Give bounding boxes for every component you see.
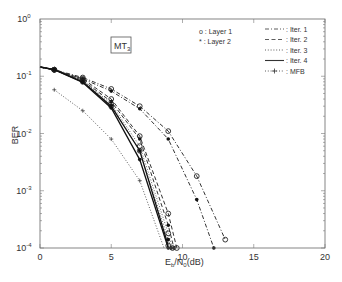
ber-chart: 0510152010010-110-210-310-4 MT3 o : Laye…: [0, 0, 342, 282]
legend-line-item: : Iter. 1: [286, 26, 308, 33]
marker-circle: [223, 237, 228, 242]
x-tick-label: 0: [37, 252, 42, 262]
legend-line-item: : Iter. 2: [286, 36, 308, 43]
legend-line-item: : MFB: [286, 68, 305, 75]
marker-star: [138, 158, 142, 162]
legend-line-item: : Iter. 4: [286, 57, 308, 64]
marker-star: [138, 137, 142, 141]
y-tick-label: 100: [17, 13, 31, 24]
y-tick-label: 10-1: [16, 70, 32, 81]
legend-line-item: : Iter. 3: [286, 47, 308, 54]
curve-iter-2-layer-1: [40, 67, 177, 248]
x-tick-label: 5: [109, 252, 114, 262]
annotation-box: MT3: [111, 37, 131, 53]
x-tick-label: 15: [249, 252, 259, 262]
marker-star: [109, 106, 113, 110]
y-tick-label: 10-3: [16, 185, 32, 196]
y-axis-label: BER: [10, 125, 20, 144]
curves: [40, 67, 228, 250]
annotation-label: MT3: [114, 41, 131, 52]
y-tick-label: 10-4: [16, 242, 32, 253]
marker-star: [166, 223, 170, 227]
tick-labels: 0510152010010-110-210-310-4: [16, 13, 330, 262]
axes-frame: [40, 19, 325, 248]
marker-star: [52, 68, 56, 72]
marker-star: [138, 107, 142, 111]
curve-iter-3-layer-2: [40, 67, 171, 248]
legend: o : Layer 1* : Layer 2: Iter. 1: Iter. 2…: [199, 26, 308, 75]
axes: [40, 19, 325, 248]
legend-marker-item: o : Layer 1: [199, 28, 232, 36]
marker-star: [166, 137, 170, 141]
curve-iter-4-layer-2: [40, 67, 168, 248]
x-tick-label: 20: [320, 252, 330, 262]
marker-star: [109, 89, 113, 93]
curve-iter-1-layer-2: [40, 67, 214, 248]
legend-marker-item: * : Layer 2: [199, 38, 231, 46]
curve-iter-1-layer-1: [40, 67, 225, 240]
curve-iter-3-layer-1: [40, 67, 173, 248]
marker-star: [81, 81, 85, 85]
marker-star: [195, 198, 199, 202]
